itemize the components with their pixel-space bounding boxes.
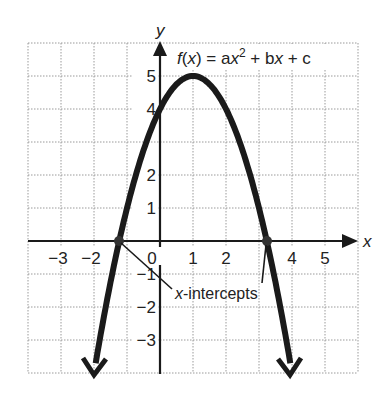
y-axis-label: y xyxy=(155,21,166,40)
x-axis-arrow-icon xyxy=(342,234,358,248)
y-tick-label: −3 xyxy=(137,331,156,350)
x-tick-label: −2 xyxy=(81,249,100,268)
y-tick-label: 1 xyxy=(147,199,156,218)
x-tick-label: 4 xyxy=(287,249,296,268)
y-tick-label: 2 xyxy=(147,166,156,185)
grid xyxy=(28,43,358,373)
y-tick-label: −2 xyxy=(137,298,156,317)
x-tick-label: 2 xyxy=(221,249,230,268)
x-tick-label: 5 xyxy=(320,249,329,268)
x-intercept-right-point xyxy=(262,236,272,246)
x-intercepts-label: x-intercepts xyxy=(174,285,258,302)
leader-line-right xyxy=(262,245,266,283)
x-tick-label: 1 xyxy=(188,249,197,268)
x-tick-label: −3 xyxy=(48,249,67,268)
x-axis-label: x xyxy=(362,232,372,251)
y-tick-label: 5 xyxy=(147,67,156,86)
parabola-chart: −3−2012455421−1−2−3 x y f(x) = ax2 + bx … xyxy=(0,0,391,398)
y-tick-label: −1 xyxy=(137,265,156,284)
